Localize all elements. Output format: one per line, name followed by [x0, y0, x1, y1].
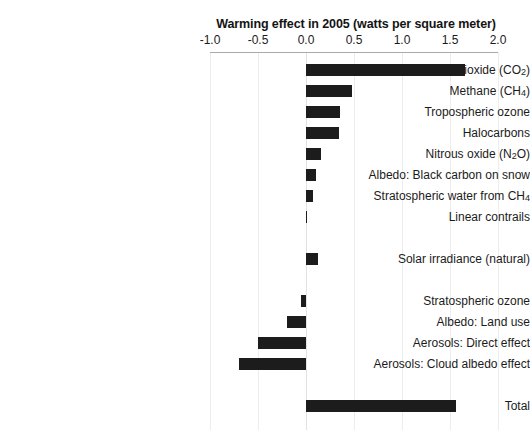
bar-carbon-dioxide: [306, 64, 465, 76]
bar-aerosols-cloud-albedo-effect: [239, 358, 306, 370]
bar-stratospheric-water: [306, 190, 313, 202]
row-label-albedo-land-use: Albedo: Land use: [320, 316, 530, 328]
row-label-stratospheric-ozone: Stratospheric ozone: [320, 295, 530, 307]
bar-tropospheric-ozone: [306, 106, 340, 118]
bar-total: [306, 400, 456, 412]
chart-title: Warming effect in 2005 (watts per square…: [206, 17, 506, 31]
row-label-albedo-black-carbon-on-snow: Albedo: Black carbon on snow: [320, 169, 530, 181]
bar-methane: [306, 85, 352, 97]
row-label-tropospheric-ozone: Tropospheric ozone: [320, 106, 530, 118]
bar-albedo-black-carbon-on-snow: [306, 169, 316, 181]
row-label-aerosols-cloud-albedo-effect: Aerosols: Cloud albedo effect: [320, 358, 530, 370]
x-tick-label-2: 0.0: [286, 33, 326, 47]
x-tick-label-0: -1.0: [190, 33, 230, 47]
row-label-stratospheric-water: Stratospheric water from CH4: [320, 190, 530, 204]
bar-stratospheric-ozone: [301, 295, 306, 307]
x-tick-label-5: 1.5: [430, 33, 470, 47]
bar-nitrous-oxide: [306, 148, 321, 160]
bar-aerosols-direct-effect: [258, 337, 306, 349]
bar-halocarbons: [306, 127, 339, 139]
x-tick-label-4: 1.0: [382, 33, 422, 47]
row-label-linear-contrails: Linear contrails: [320, 211, 530, 223]
row-label-aerosols-direct-effect: Aerosols: Direct effect: [320, 337, 530, 349]
x-tick-label-6: 2.0: [478, 33, 518, 47]
x-tick-label-1: -0.5: [238, 33, 278, 47]
bar-solar-irradiance: [306, 253, 318, 265]
bar-linear-contrails: [306, 211, 307, 223]
bar-albedo-land-use: [287, 316, 306, 328]
row-label-solar-irradiance: Solar irradiance (natural): [320, 253, 530, 265]
x-axis-tick-labels: -1.0-0.50.00.51.01.52.0: [0, 33, 530, 49]
gridline-0: [210, 52, 211, 430]
gridline-1: [258, 52, 259, 430]
row-label-nitrous-oxide: Nitrous oxide (N2O): [320, 148, 530, 162]
radiative-forcing-bar-chart: Warming effect in 2005 (watts per square…: [0, 0, 530, 442]
x-tick-label-3: 0.5: [334, 33, 374, 47]
x-axis-line: [210, 52, 498, 53]
row-label-halocarbons: Halocarbons: [320, 127, 530, 139]
